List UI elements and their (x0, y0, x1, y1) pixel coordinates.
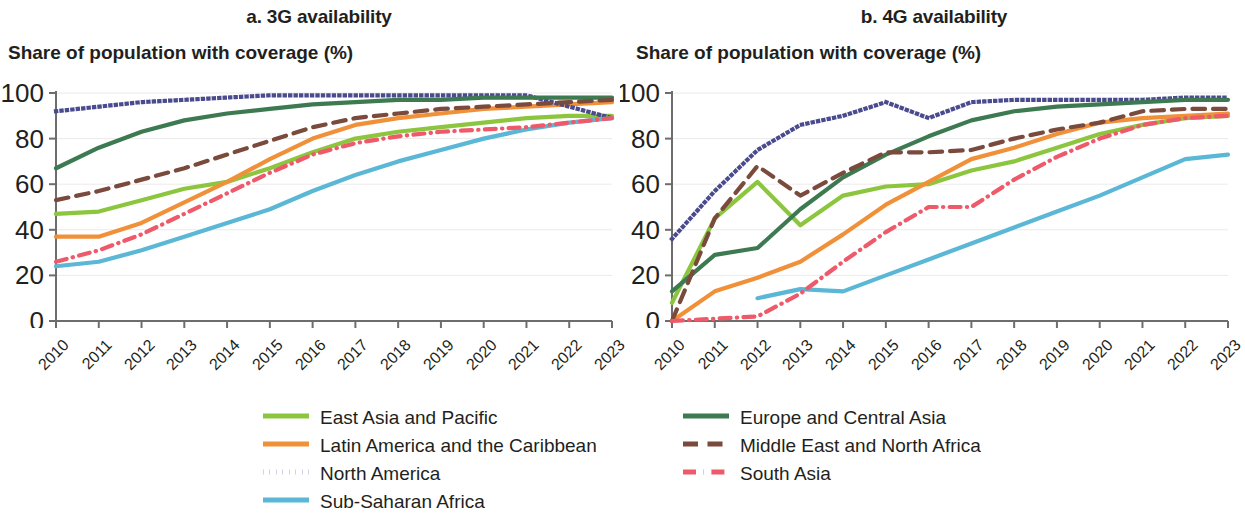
y-tick-label: 40 (15, 215, 44, 245)
chart-legend: East Asia and PacificLatin America and t… (0, 404, 1238, 517)
y-tick-label: 60 (15, 169, 44, 199)
y-tick-label: 100 (1, 78, 44, 108)
panel-3g-availability: a. 3G availability Share of population w… (0, 0, 620, 400)
legend-item[interactable]: Latin America and the Caribbean (262, 432, 597, 460)
legend-line-icon (682, 409, 730, 427)
y-tick-label: 80 (15, 124, 44, 154)
legend-item-label: South Asia (740, 464, 831, 484)
series-line (672, 116, 1228, 303)
legend-item-label: Middle East and North Africa (740, 436, 981, 456)
series-line (56, 118, 612, 266)
panel-a-title: a. 3G availability (0, 6, 620, 28)
series-line (672, 114, 1228, 321)
y-tick-label: 60 (631, 169, 660, 199)
panel-b-svg: 020406080100 (620, 78, 1238, 328)
legend-item-label: East Asia and Pacific (320, 408, 497, 428)
panel-4g-availability: b. 4G availability Share of population w… (620, 0, 1238, 400)
y-tick-label: 80 (631, 124, 660, 154)
legend-column-left: East Asia and PacificLatin America and t… (262, 404, 597, 516)
series-line (758, 155, 1228, 299)
series-line (56, 118, 612, 262)
panel-b-x-axis-labels: 2010201120122013201420152016201720182019… (620, 332, 1238, 396)
y-tick-label: 100 (620, 78, 660, 108)
legend-item[interactable]: Sub-Saharan Africa (262, 488, 597, 516)
y-tick-label: 0 (30, 306, 44, 328)
legend-item[interactable]: Europe and Central Asia (682, 404, 981, 432)
y-tick-label: 40 (631, 215, 660, 245)
panel-b-axis-title: Share of population with coverage (%) (636, 42, 981, 64)
legend-line-icon (262, 409, 310, 427)
legend-item[interactable]: North America (262, 460, 597, 488)
panel-a-plot: 020406080100 (0, 78, 620, 328)
series-line (672, 109, 1228, 321)
legend-line-icon (682, 437, 730, 455)
panel-b-title: b. 4G availability (620, 6, 1238, 28)
panel-a-svg: 020406080100 (0, 78, 620, 328)
legend-column-right: Europe and Central AsiaMiddle East and N… (682, 404, 981, 488)
y-tick-label: 20 (15, 260, 44, 290)
y-tick-label: 0 (646, 306, 660, 328)
panel-a-axis-title: Share of population with coverage (%) (8, 42, 353, 64)
legend-item-label: North America (320, 464, 440, 484)
legend-line-icon (262, 493, 310, 511)
legend-line-icon (262, 437, 310, 455)
panel-a-x-axis-labels: 2010201120122013201420152016201720182019… (0, 332, 620, 396)
legend-item[interactable]: Middle East and North Africa (682, 432, 981, 460)
legend-item-label: Europe and Central Asia (740, 408, 946, 428)
panel-b-plot: 020406080100 (620, 78, 1238, 328)
legend-line-icon (682, 465, 730, 483)
series-line (672, 116, 1228, 321)
legend-item[interactable]: East Asia and Pacific (262, 404, 597, 432)
legend-item-label: Latin America and the Caribbean (320, 436, 597, 456)
legend-item[interactable]: South Asia (682, 460, 981, 488)
series-line (672, 100, 1228, 292)
legend-line-icon (262, 465, 310, 483)
y-tick-label: 20 (631, 260, 660, 290)
legend-item-label: Sub-Saharan Africa (320, 492, 485, 512)
